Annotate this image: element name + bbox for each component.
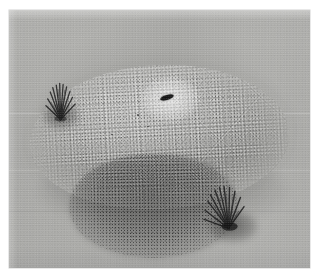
page-root [0,0,318,280]
photograph [9,10,310,268]
photo-left-edge-fade [9,10,17,268]
photo-top-edge-fade [9,10,310,20]
photo-vignette [9,10,310,268]
